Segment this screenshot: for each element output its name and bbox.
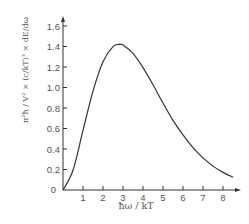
y-tick-label: 0.8: [47, 103, 60, 114]
x-tick-label: 5: [160, 192, 165, 203]
x-tick-label: 8: [220, 192, 225, 203]
y-tick-label: 1.4: [47, 41, 60, 52]
x-tick-label: 1: [80, 192, 85, 203]
data-curve: [63, 44, 233, 190]
y-tick-label: 0.6: [47, 123, 60, 134]
x-tick-label: 6: [180, 192, 185, 203]
y-axis-arrow-icon: [61, 16, 65, 22]
y-axis-label: π²ħ / V² × (c/kT)³ × dE/dω: [21, 16, 30, 123]
y-tick-label: 1.2: [47, 62, 60, 73]
x-axis-label: ħω / kT: [118, 200, 154, 211]
y-tick-label: 1.6: [47, 21, 60, 32]
chart: 0.20.40.60.81.01.21.41.6 12345678 0 ħω /…: [0, 0, 249, 224]
y-tick-label: 0.2: [47, 164, 60, 175]
y-tick-label: 1.0: [47, 82, 60, 93]
y-tick-label: 0.4: [47, 144, 60, 155]
y-axis-label-text: π²ħ / V² × (c/kT)³ × dE/dω: [21, 16, 30, 123]
y-axis-ticks: 0.20.40.60.81.01.21.41.6: [47, 21, 67, 176]
x-tick-label: 2: [100, 192, 105, 203]
x-tick-label: 7: [200, 192, 205, 203]
origin-label: 0: [51, 184, 56, 195]
x-axis-arrow-icon: [235, 188, 241, 192]
plot-area: [61, 16, 241, 192]
